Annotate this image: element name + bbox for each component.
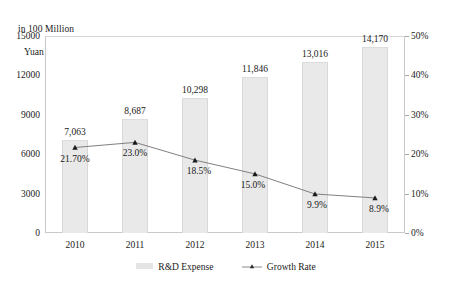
bar-value-label-2010: 7,063 (40, 127, 110, 138)
y2-axis-tick-10pct: 10% (411, 189, 447, 199)
y2-axis-tick-30pct: 30% (411, 110, 447, 120)
y2-tickmark (405, 154, 409, 155)
y2-axis-tick-0pct: 0% (411, 228, 447, 238)
x-axis-tick-2011: 2011 (105, 239, 165, 251)
line-marker-icon (242, 262, 262, 270)
y2-axis-tick-40pct: 40% (411, 70, 447, 80)
rd-expense-growth-chart: in 100 Million Yuan 15000 12000 9000 600… (0, 0, 452, 286)
growth-rate-label-2015: 8.9% (344, 204, 414, 215)
y2-tickmark (405, 194, 409, 195)
y2-tickmark (405, 115, 409, 116)
bar-value-label-2014: 13,016 (280, 49, 350, 60)
x-axis-tick-2015: 2015 (345, 239, 405, 251)
y-axis-tick-9000: 9000 (0, 110, 40, 120)
y2-tickmark (405, 75, 409, 76)
y-axis-tick-0: 0 (0, 228, 40, 238)
bar-2013 (242, 77, 268, 233)
y-axis-tick-12000: 12000 (0, 70, 40, 80)
bar-2011 (122, 119, 148, 233)
growth-rate-label-2013: 15.0% (218, 180, 288, 191)
x-axis-tick-2014: 2014 (285, 239, 345, 251)
y-axis-tick-15000: 15000 (0, 31, 40, 41)
legend-item-growth-rate: Growth Rate (242, 260, 316, 273)
y-axis-tick-6000: 6000 (0, 149, 40, 159)
bar-value-label-2011: 8,687 (100, 106, 170, 117)
legend-label-rd-expense: R&D Expense (158, 262, 213, 272)
y2-tickmark (405, 233, 409, 234)
x-axis-tick-2013: 2013 (225, 239, 285, 251)
y2-axis-tick-20pct: 20% (411, 149, 447, 159)
legend-label-growth-rate: Growth Rate (267, 262, 316, 272)
x-axis-tick-2012: 2012 (165, 239, 225, 251)
bar-value-label-2012: 10,298 (160, 85, 230, 96)
bar-swatch-icon (136, 263, 153, 269)
growth-rate-label-2012: 18.5% (164, 166, 234, 177)
chart-legend: R&D Expense Growth Rate (0, 260, 452, 273)
legend-item-rd-expense: R&D Expense (136, 260, 213, 273)
x-axis-tick-2010: 2010 (45, 239, 105, 251)
bar-value-label-2015: 14,170 (340, 34, 410, 45)
growth-rate-label-2014: 9.9% (282, 200, 352, 211)
growth-rate-label-2011: 23.0% (100, 148, 170, 159)
y-axis-tick-3000: 3000 (0, 189, 40, 199)
bar-value-label-2013: 11,846 (220, 64, 290, 75)
y2-axis-tick-50pct: 50% (411, 31, 447, 41)
